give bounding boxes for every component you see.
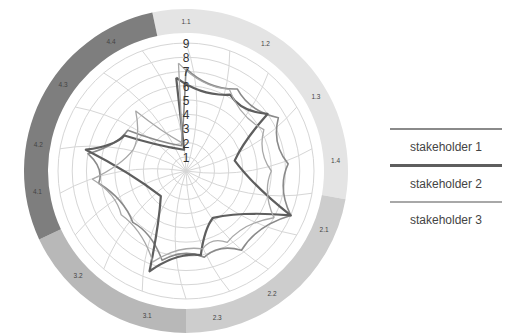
category-label: 3.1 (143, 312, 152, 319)
radial-tick-labels: 123456789 (183, 37, 190, 165)
radial-tick-label: 2 (183, 137, 190, 151)
category-label: 1.4 (331, 157, 340, 164)
radial-tick-label: 3 (183, 122, 190, 136)
radial-tick-label: 8 (183, 51, 190, 65)
category-label: 4.4 (106, 38, 115, 45)
radar-chart: 1.11.21.31.42.12.22.33.13.24.14.24.34.41… (0, 0, 380, 334)
legend-swatch (390, 201, 502, 203)
legend-item-stakeholder-1: stakeholder 1 (390, 128, 502, 154)
category-label: 4.1 (33, 188, 42, 195)
category-label: 2.3 (213, 314, 222, 321)
legend-label: stakeholder 1 (390, 140, 502, 154)
radial-tick-label: 5 (183, 94, 190, 108)
legend-swatch (390, 164, 502, 167)
legend: stakeholder 1 stakeholder 2 stakeholder … (390, 128, 502, 237)
legend-swatch (390, 128, 502, 130)
legend-item-stakeholder-3: stakeholder 3 (390, 201, 502, 227)
category-label: 1.2 (261, 40, 270, 47)
legend-label: stakeholder 2 (390, 177, 502, 191)
category-label: 4.2 (34, 141, 43, 148)
category-label: 2.1 (320, 226, 329, 233)
legend-item-stakeholder-2: stakeholder 2 (390, 164, 502, 191)
category-label: 1.3 (311, 93, 320, 100)
radial-tick-label: 4 (183, 108, 190, 122)
category-label: 3.2 (74, 272, 83, 279)
radial-tick-label: 6 (183, 80, 190, 94)
category-label: 2.2 (268, 290, 277, 297)
radial-tick-label: 7 (183, 65, 190, 79)
ring-sector-group-3 (39, 229, 186, 333)
category-label: 1.1 (181, 18, 190, 25)
category-label: 4.3 (59, 81, 68, 88)
radial-tick-label: 9 (183, 37, 190, 51)
radial-tick-label: 1 (183, 151, 190, 165)
legend-label: stakeholder 3 (390, 213, 502, 227)
